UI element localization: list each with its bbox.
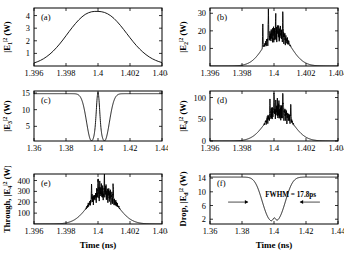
x-tick-label: 1.398 [57,227,76,236]
y-tick-label: 14 [198,174,207,183]
y-tick-label: 10 [198,44,206,53]
plot-svg-c: 1.361.381.41.421.4451015(c)|E3|2 (W) [0,83,168,171]
plot-frame [34,8,162,66]
fwhm-arrowhead-right [300,200,303,204]
x-tick-label: 1.404 [329,144,344,153]
x-tick-label: 1.4 [93,69,104,78]
x-tick-label: 1.402 [297,144,316,153]
panel-tag-a: (a) [41,12,51,22]
data-curve-a [34,11,162,63]
x-tick-label: 1.36 [27,144,42,153]
plot-panel-a: 1.3961.3981.41.4021.4041234(a)|E1|2 (W) [0,0,168,96]
y-tick-label: 1 [26,49,30,58]
data-curve-d [210,93,338,141]
x-tick-label: 1.42 [123,144,138,153]
x-tick-label: 1.402 [121,69,140,78]
x-axis-title: Time (ns) [80,240,117,250]
y-tick-label: 2 [26,37,30,46]
y-tick-label: 100 [17,209,30,218]
x-tick-label: 1.398 [233,69,252,78]
plot-panel-e: 1.3961.3981.41.4021.404100200300400(e)Ti… [0,166,168,254]
y-tick-label: 3 [26,24,30,33]
x-tick-label: 1.404 [153,227,168,236]
panel-tag-d: (d) [217,95,227,105]
y-tick-label: 100 [193,94,206,103]
plot-frame [34,91,162,141]
x-tick-label: 1.398 [233,144,252,153]
x-tick-label: 1.396 [201,69,220,78]
x-tick-label: 1.36 [203,227,218,236]
x-tick-label: 1.4 [93,144,104,153]
y-tick-label: 2 [202,215,206,224]
plot-svg-d: 1.3961.3981.41.4021.404050100(d)|E4|2 (W… [176,83,344,171]
x-tick-label: 1.402 [121,227,140,236]
y-axis-title-f: Drop, |Ed|2 (W) [178,171,189,226]
panel-tag-c: (c) [41,95,51,105]
x-tick-label: 1.4 [269,227,280,236]
y-tick-label: 10 [198,188,206,197]
figure-panel-grid: 1.3961.3981.41.4021.4041234(a)|E1|2 (W)1… [0,0,353,262]
y-tick-label: 20 [198,27,206,36]
x-tick-label: 1.38 [59,144,74,153]
panel-tag-e: (e) [41,178,51,188]
fwhm-arrowhead-left [245,200,248,204]
panel-tag-f: (f) [217,178,226,188]
y-tick-label: 50 [198,115,206,124]
plot-panel-f: 1.361.381.41.421.44261014(f)FWHM = 17.8p… [176,166,344,254]
x-tick-label: 1.402 [297,69,316,78]
data-curve-b [210,9,338,66]
x-axis-title: Time (ns) [256,240,293,250]
y-axis-title-b: |E2|2 (W) [178,21,189,53]
y-tick-label: 15 [22,89,30,98]
data-curve-c [34,92,162,141]
x-tick-label: 1.44 [155,144,168,153]
x-tick-label: 1.4 [269,69,280,78]
x-tick-label: 1.404 [329,69,344,78]
y-axis-title-a: |E1|2 (W) [2,21,13,53]
x-tick-label: 1.4 [93,227,104,236]
y-tick-label: 6 [202,202,206,211]
x-tick-label: 1.38 [235,227,250,236]
plot-svg-b: 1.3961.3981.41.4021.404102030(b)|E2|2 (W… [176,0,344,96]
y-tick-label: 400 [17,177,30,186]
plot-svg-e: 1.3961.3981.41.4021.404100200300400(e)Ti… [0,166,168,254]
plot-svg-f: 1.361.381.41.421.44261014(f)FWHM = 17.8p… [176,166,344,254]
x-tick-label: 1.42 [299,227,314,236]
plot-panel-c: 1.361.381.41.421.4451015(c)|E3|2 (W) [0,83,168,171]
y-tick-label: 200 [17,198,30,207]
plot-svg-a: 1.3961.3981.41.4021.4041234(a)|E1|2 (W) [0,0,168,96]
x-tick-label: 1.398 [57,69,76,78]
y-axis-title-e: Through, |E4|2 (W) [2,166,13,233]
y-axis-title-c: |E3|2 (W) [2,100,13,132]
plot-panel-b: 1.3961.3981.41.4021.404102030(b)|E2|2 (W… [176,0,344,96]
y-tick-label: 300 [17,187,30,196]
y-tick-label: 30 [198,9,206,18]
x-tick-label: 1.4 [269,144,280,153]
x-tick-label: 1.44 [331,227,344,236]
y-tick-label: 0 [202,137,206,146]
x-tick-label: 1.396 [25,69,44,78]
y-tick-label: 5 [26,122,30,131]
x-tick-label: 1.396 [25,227,44,236]
y-axis-title-d: |E4|2 (W) [178,100,189,132]
panel-tag-b: (b) [217,12,227,22]
x-tick-label: 1.404 [153,69,168,78]
plot-panel-d: 1.3961.3981.41.4021.404050100(d)|E4|2 (W… [176,83,344,171]
y-tick-label: 10 [22,106,30,115]
fwhm-annotation-label: FWHM = 17.8ps [265,191,316,199]
y-tick-label: 4 [26,12,31,21]
data-curve-e [34,172,162,224]
